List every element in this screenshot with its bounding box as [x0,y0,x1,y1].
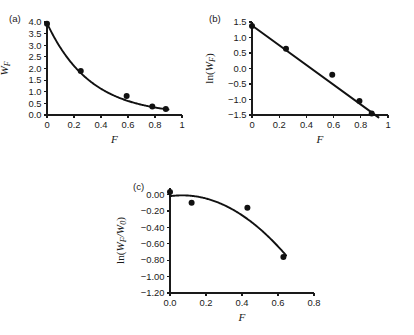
yaxis-title-text-c: ln(WF/W0) [114,217,128,264]
data-point-b-1 [283,46,289,52]
panel-label-b: (b) [209,13,221,24]
data-point-c-1 [189,200,195,206]
ytick-label-a-0: 0.0 [28,109,41,120]
ytick-label-a-2: 1.0 [28,86,41,97]
xtick-label-a-0: 0 [44,119,49,130]
data-point-b-4 [369,110,375,116]
fit-curve-c [170,195,286,255]
yaxis-title-text-a: WF [0,61,12,75]
ytick-label-c-5: −0.20 [141,205,165,216]
data-point-a-4 [163,106,169,112]
xaxis-title-c: F [238,311,246,323]
xtick-label-b-5: 1 [385,119,390,130]
data-point-a-3 [149,103,155,109]
xtick-label-b-2: 0.4 [300,119,313,130]
xtick-label-c-2: 0.4 [235,297,248,308]
xtick-label-b-1: 0.2 [273,119,286,130]
ytick-label-b-0: −1.5 [228,109,247,120]
yaxis-title-c: ln(WF/W0) [114,217,128,264]
data-point-a-0 [44,21,50,27]
panel-b: (b)−1.5−1.0−0.50.00.51.01.500.20.40.60.8… [203,13,391,145]
xaxis-title-a: F [110,133,118,145]
yaxis-title-b: ln(WF) [203,53,217,84]
panel-label-a: (a) [9,13,21,24]
ytick-label-b-5: 1.0 [233,32,246,43]
ytick-label-b-4: 0.5 [233,47,246,58]
ytick-label-a-7: 3.5 [28,28,41,39]
ytick-label-a-1: 0.5 [28,98,41,109]
ytick-label-c-4: −0.40 [141,222,165,233]
xtick-label-a-4: 0.8 [148,119,161,130]
xtick-label-c-0: 0.0 [163,297,176,308]
ytick-label-a-8: 4.0 [28,16,41,27]
yaxis-title-text-b: ln(WF) [203,53,217,84]
xtick-label-b-0: 0 [249,119,254,130]
xtick-label-a-2: 0.4 [94,119,107,130]
xtick-label-c-4: 0.8 [307,297,320,308]
data-point-a-1 [78,68,84,74]
ytick-label-b-6: 1.5 [233,16,246,27]
xtick-label-a-5: 1 [179,119,184,130]
data-point-b-3 [356,98,362,104]
xtick-label-c-3: 0.6 [271,297,284,308]
ytick-label-a-4: 2.0 [28,63,41,74]
ytick-label-c-0: −1.20 [141,287,165,298]
fit-curve-a [47,23,169,109]
ytick-label-a-6: 3.0 [28,40,41,51]
data-point-c-0 [167,189,173,195]
axis-spines-a [47,22,182,115]
ytick-label-c-2: −0.80 [141,254,165,265]
ytick-label-c-1: −1.00 [141,271,165,282]
ytick-label-b-1: −1.0 [228,94,247,105]
xtick-label-b-4: 0.8 [354,119,367,130]
data-point-c-3 [280,254,286,260]
panel-c: (c)−1.20−1.00−0.80−0.60−0.40−0.200.000.0… [114,181,321,323]
panel-a: (a)0.00.51.01.52.02.53.03.54.000.20.40.6… [0,13,185,145]
axis-spines-b [252,22,388,115]
three-panel-figure: (a)0.00.51.01.52.02.53.03.54.000.20.40.6… [0,0,414,335]
figure-container: (a)0.00.51.01.52.02.53.03.54.000.20.40.6… [0,0,414,335]
xtick-label-a-1: 0.2 [67,119,80,130]
ytick-label-b-3: 0.0 [233,63,246,74]
panel-label-c: (c) [133,181,144,192]
ytick-label-a-5: 2.5 [28,51,41,62]
xaxis-title-b: F [316,133,324,145]
ytick-label-a-3: 1.5 [28,74,41,85]
ytick-label-c-6: 0.00 [146,189,164,200]
data-point-a-2 [124,93,130,99]
xtick-label-c-1: 0.2 [199,297,212,308]
data-point-c-2 [244,205,250,211]
data-point-b-0 [249,23,255,29]
ytick-label-c-3: −0.60 [141,238,165,249]
data-point-b-2 [329,72,335,78]
ytick-label-b-2: −0.5 [228,78,247,89]
xtick-label-b-3: 0.6 [327,119,340,130]
yaxis-title-a: WF [0,61,12,75]
xtick-label-a-3: 0.6 [121,119,134,130]
